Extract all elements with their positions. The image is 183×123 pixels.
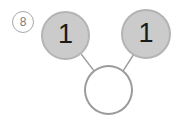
problem-index-value: 8 [20, 16, 27, 28]
number-bond-whole-input[interactable] [84, 65, 133, 115]
number-bond-part-right-value: 1 [138, 20, 153, 47]
edge-left-part-to-whole [82, 55, 95, 72]
number-bond-canvas: 8 1 1 [0, 0, 183, 123]
number-bond-part-left[interactable]: 1 [41, 11, 90, 60]
number-bond-part-right[interactable]: 1 [121, 9, 171, 59]
number-bond-part-left-value: 1 [58, 21, 73, 48]
problem-index-badge: 8 [12, 11, 34, 33]
edge-right-part-to-whole [123, 54, 134, 71]
